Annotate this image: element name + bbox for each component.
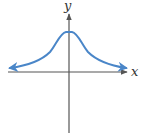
- graph: y x: [0, 0, 142, 135]
- x-axis-label: x: [131, 64, 139, 79]
- y-axis-label: y: [63, 0, 72, 13]
- bell-curve: [10, 32, 126, 68]
